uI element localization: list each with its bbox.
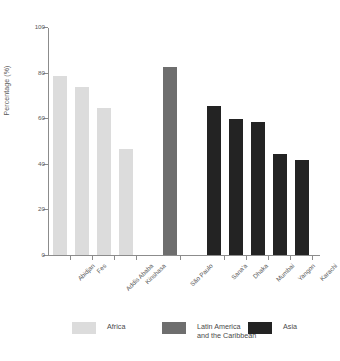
- x-tick-label: Mumbai: [275, 262, 297, 284]
- x-tick-mark: [224, 256, 225, 260]
- x-tick-label: Karachi: [319, 262, 340, 283]
- legend-item[interactable]: Africa: [72, 322, 125, 334]
- bar: [251, 122, 265, 255]
- x-axis-line: [48, 255, 320, 256]
- x-tick-mark: [180, 256, 181, 260]
- x-tick-mark: [114, 256, 115, 260]
- y-tick-label: 40: [38, 159, 45, 168]
- y-axis-line: [48, 28, 49, 256]
- bar: [53, 76, 67, 255]
- x-tick-mark: [268, 256, 269, 260]
- y-axis-title: Percentage (%): [3, 65, 10, 115]
- legend-color-swatch: [248, 322, 272, 334]
- y-tick-label: 100: [35, 22, 45, 31]
- x-tick-mark: [312, 256, 313, 260]
- bar: [163, 67, 177, 255]
- legend-color-swatch: [162, 322, 186, 334]
- x-tick-mark: [246, 256, 247, 260]
- x-tick-label: Sana'a: [230, 262, 249, 281]
- x-tick-label: Yangon: [297, 262, 318, 283]
- bar: [273, 154, 287, 255]
- legend-item[interactable]: Latin America and the Caribbean: [162, 322, 256, 341]
- bar: [119, 149, 133, 255]
- x-tick-label: São Paulo: [189, 262, 215, 288]
- plot-area: 020406080100: [48, 28, 320, 256]
- legend-color-swatch: [72, 322, 96, 334]
- bar-chart-figure: Percentage (%) 020406080100 AbidjanFesAd…: [0, 0, 340, 361]
- x-tick-label: Fes: [95, 262, 108, 275]
- y-tick-label: 60: [38, 113, 45, 122]
- bar: [75, 87, 89, 255]
- x-tick-label: Dhaka: [252, 262, 271, 281]
- x-tick-mark: [70, 256, 71, 260]
- x-tick-mark: [92, 256, 93, 260]
- legend-item[interactable]: Asia: [248, 322, 297, 334]
- chart-legend: AfricaLatin America and the CaribbeanAsi…: [0, 322, 340, 356]
- y-tick-label: 80: [38, 68, 45, 77]
- bar: [207, 106, 221, 255]
- bar: [295, 160, 309, 255]
- x-tick-mark: [290, 256, 291, 260]
- x-tick-label: Abidjan: [76, 262, 97, 283]
- y-tick-label: 0: [42, 250, 45, 259]
- legend-label: Africa: [107, 322, 125, 331]
- bar: [97, 108, 111, 255]
- legend-label: Asia: [283, 322, 297, 331]
- y-tick-label: 20: [38, 204, 45, 213]
- bar: [229, 119, 243, 255]
- x-tick-mark: [136, 256, 137, 260]
